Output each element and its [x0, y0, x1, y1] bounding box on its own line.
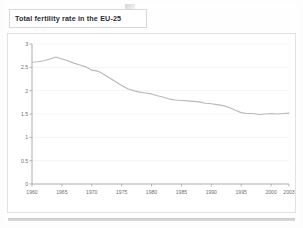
chart-x-axis-ticks: 1960196519701975198019851990199520002003 [26, 184, 294, 195]
x-tick-label: 1985 [176, 189, 187, 195]
y-tick-label: 1.5 [21, 111, 28, 117]
x-tick-label: 1995 [236, 189, 247, 195]
x-tick-label: 2000 [265, 189, 276, 195]
x-tick-label: 1990 [206, 189, 217, 195]
y-tick-label: 2 [25, 88, 28, 94]
x-tick-label: 1965 [56, 189, 67, 195]
x-tick-label: 1980 [146, 189, 157, 195]
x-tick-label: 1970 [86, 189, 97, 195]
chart-y-axis-ticks: 00.511.522.53 [21, 41, 32, 187]
y-tick-label: 0 [25, 181, 28, 187]
x-tick-label: 2003 [283, 189, 294, 195]
slide-canvas: Total fertility rate in the EU-25 00.511… [0, 0, 303, 228]
x-tick-label: 1960 [26, 189, 37, 195]
x-tick-label: 1975 [116, 189, 127, 195]
y-tick-label: 0.5 [21, 158, 28, 164]
y-tick-label: 2.5 [21, 64, 28, 70]
page-title: Total fertility rate in the EU-25 [10, 14, 121, 23]
y-tick-label: 3 [25, 41, 28, 47]
chart-series-line [32, 57, 289, 114]
chart-card: 00.511.522.53 19601965197019751980198519… [7, 33, 296, 213]
y-tick-label: 1 [25, 134, 28, 140]
slide-bottom-rule [8, 218, 295, 221]
fertility-rate-line-chart: 00.511.522.53 19601965197019751980198519… [8, 34, 295, 212]
chart-title-card: Total fertility rate in the EU-25 [9, 9, 147, 28]
